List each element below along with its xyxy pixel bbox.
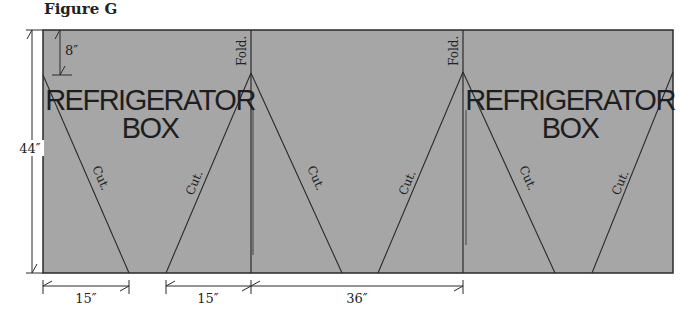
fold-label-left: Fold. [235,36,249,66]
dimension-bottom-label-3: 36″ [346,291,368,306]
fold-label-right: Fold. [447,36,461,66]
cardboard-panel [43,30,673,273]
box-label-right-line2: BOX [542,112,600,144]
dimension-top-offset-label: 8″ [65,43,78,58]
dimension-height-label: 44″ [19,141,41,156]
dimension-bottom [43,280,463,294]
box-label-left-line2: BOX [122,112,180,144]
dimension-bottom-label-1: 15″ [75,291,97,306]
cutting-diagram: REFRIGERATOR BOX REFRIGERATOR BOX Fold. … [0,0,691,316]
dimension-bottom-label-2: 15″ [197,291,219,306]
